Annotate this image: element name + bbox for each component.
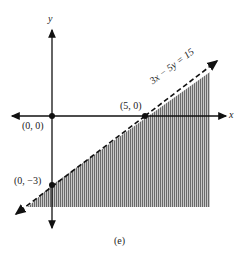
x-intercept-label: (5, 0) <box>120 101 142 111</box>
point-origin <box>49 113 55 119</box>
point-y-intercept <box>49 182 55 188</box>
y-axis-label: y <box>48 14 52 24</box>
origin-label: (0, 0) <box>22 121 44 131</box>
x-axis-label: x <box>229 110 233 120</box>
shaded-region <box>28 72 210 207</box>
figure-caption: (e) <box>114 236 125 246</box>
y-intercept-label: (0, −3) <box>14 176 41 186</box>
point-x-intercept <box>142 113 148 119</box>
